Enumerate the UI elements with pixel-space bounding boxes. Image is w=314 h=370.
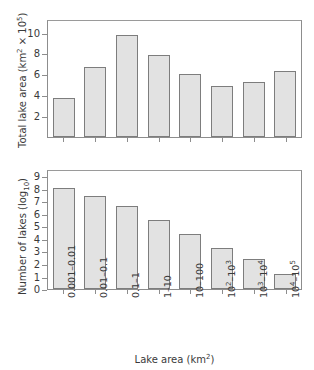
x-category-label-6: 103–104 <box>259 260 269 298</box>
bar-top-3 <box>148 55 170 138</box>
x-axis-title-tail: ) <box>210 354 214 365</box>
x-axis-title-text: Lake area (km <box>135 354 206 365</box>
y-tick-label-top-10: 10 <box>27 29 40 39</box>
x-tick-top-3 <box>159 138 160 142</box>
y-tick-label-bottom-7: 7 <box>34 197 40 207</box>
x-category-label-2: 0.1–1 <box>131 272 141 298</box>
bar-top-6 <box>243 82 265 137</box>
y-tick-label-top-6: 6 <box>34 70 40 80</box>
x-tick-top-1 <box>95 138 96 142</box>
panel-number-of-lakes: Number of lakes (log10) 9 8 7 6 5 4 3 2 … <box>0 160 314 370</box>
x-category-label-4: 10–100 <box>195 263 205 298</box>
x-tick-bottom-1 <box>95 290 96 294</box>
y-axis-title-top-tail: ) <box>17 13 28 17</box>
panel-total-lake-area: Total lake area (km2 × 105) 10 8 6 4 2 <box>0 0 314 160</box>
y-tick-label-bottom-4: 4 <box>34 235 40 245</box>
x-category-label-5: 102–103 <box>227 260 237 298</box>
bar-top-1 <box>84 67 106 137</box>
x-tick-bottom-4 <box>190 290 191 294</box>
x-tick-bottom-2 <box>127 290 128 294</box>
x-tick-top-4 <box>190 138 191 142</box>
x-tick-bottom-5 <box>222 290 223 294</box>
bar-top-7 <box>274 71 296 137</box>
y-tick-label-top-4: 4 <box>34 91 40 101</box>
bar-top-0 <box>53 98 75 137</box>
figure: Total lake area (km2 × 105) 10 8 6 4 2 <box>0 0 314 370</box>
x-axis-top <box>47 138 302 144</box>
y-tick-label-bottom-1: 1 <box>34 273 40 283</box>
bar-top-5 <box>211 86 233 137</box>
x-category-label-7: 104–105 <box>291 260 301 298</box>
x-tick-bottom-0 <box>63 290 64 294</box>
x-tick-top-6 <box>254 138 255 142</box>
x-tick-top-2 <box>127 138 128 142</box>
y-tick-label-bottom-6: 6 <box>34 210 40 220</box>
y-tick-label-top-2: 2 <box>34 112 40 122</box>
y-tick-label-bottom-2: 2 <box>34 260 40 270</box>
x-tick-top-7 <box>286 138 287 142</box>
y-tick-label-bottom-0: 0 <box>34 285 40 295</box>
x-category-label-0: 0.001–0.01 <box>67 245 77 298</box>
plot-area-top <box>47 20 302 138</box>
bar-top-4 <box>179 74 201 137</box>
x-tick-bottom-3 <box>159 290 160 294</box>
y-axis-top: 10 8 6 4 2 <box>0 20 47 138</box>
y-tick-label-bottom-3: 3 <box>34 247 40 257</box>
y-tick-label-bottom-8: 8 <box>34 185 40 195</box>
y-tick-label-bottom-9: 9 <box>34 172 40 182</box>
bar-top-2 <box>116 35 138 137</box>
x-tick-top-0 <box>63 138 64 142</box>
y-tick-label-top-8: 8 <box>34 49 40 59</box>
x-category-labels: 0.001–0.01 0.01–0.1 0.1–1 1–10 10–100 10… <box>47 298 302 358</box>
x-tick-bottom-6 <box>254 290 255 294</box>
x-tick-bottom-7 <box>286 290 287 294</box>
x-tick-top-5 <box>222 138 223 142</box>
bar-group-top <box>48 21 301 137</box>
x-category-label-3: 1–10 <box>163 275 173 298</box>
x-axis-title-bottom: Lake area (km2) <box>47 354 302 365</box>
y-tick-label-bottom-5: 5 <box>34 222 40 232</box>
y-axis-bottom: 9 8 7 6 5 4 3 2 1 0 <box>0 170 47 290</box>
x-category-label-1: 0.01–0.1 <box>99 257 109 298</box>
